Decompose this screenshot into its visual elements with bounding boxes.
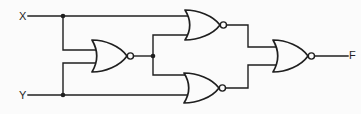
junction-y-dot bbox=[61, 93, 66, 98]
logic-circuit-diagram: X Y F bbox=[0, 0, 361, 114]
input-y-label: Y bbox=[19, 89, 27, 101]
nor2-bubble-icon bbox=[220, 22, 226, 28]
nor3-bubble-icon bbox=[219, 85, 225, 91]
junction-x-dot bbox=[61, 14, 66, 19]
input-x-label: X bbox=[19, 10, 27, 22]
junction-nor1-out-dot bbox=[151, 54, 156, 59]
output-f-label: F bbox=[349, 49, 356, 61]
nor4-bubble-icon bbox=[308, 53, 314, 59]
nor1-bubble-icon bbox=[127, 53, 133, 59]
